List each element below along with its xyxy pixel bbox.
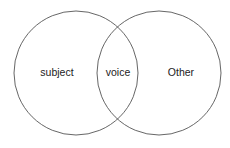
left-set-label: subject bbox=[40, 66, 73, 78]
intersection-label: voice bbox=[106, 66, 131, 78]
venn-diagram: subject voice Other bbox=[0, 0, 230, 148]
right-set-label: Other bbox=[168, 66, 195, 78]
